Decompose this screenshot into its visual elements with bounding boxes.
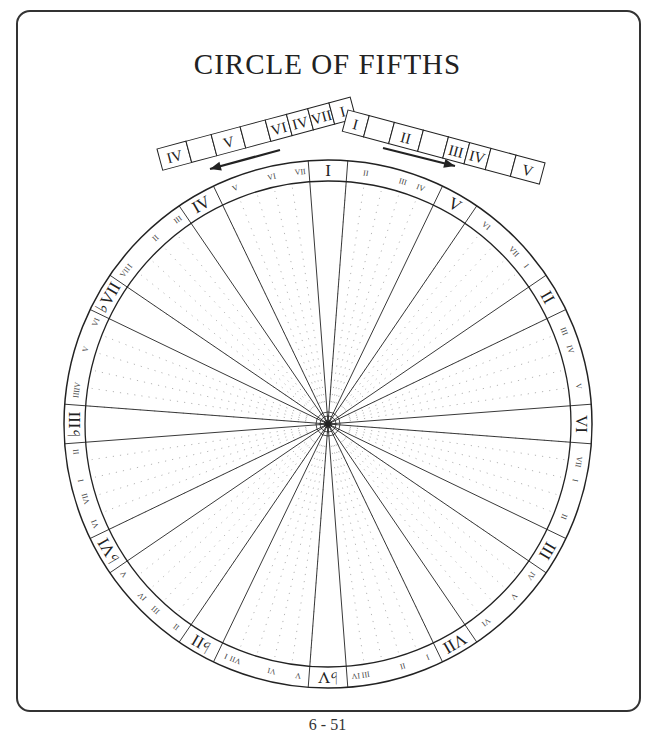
spoke-line	[328, 275, 546, 424]
dotted-guide-line	[179, 237, 314, 407]
major-degree-label: ♭II	[188, 630, 215, 656]
dotted-guide-line	[92, 427, 307, 459]
spoke-line	[308, 424, 328, 687]
minor-degree-label: VI	[89, 518, 101, 530]
dotted-guide-line	[141, 438, 311, 573]
minor-degree-label: I	[223, 651, 229, 660]
minor-degree-label: V	[508, 591, 519, 602]
spoke-line	[179, 424, 328, 642]
page-number: 6 - 51	[0, 716, 655, 734]
dotted-guide-line	[241, 202, 320, 404]
dotted-guide-line	[100, 430, 307, 494]
dotted-guide-line	[100, 354, 307, 418]
dotted-guide-line	[336, 444, 415, 646]
major-degree-label: III	[535, 539, 560, 564]
dotted-guide-line	[258, 196, 322, 403]
spoke-line	[328, 424, 442, 662]
major-degree-label: ♭VI	[94, 534, 124, 566]
dotted-guide-line	[348, 337, 550, 416]
major-degree-label: VI	[572, 415, 591, 433]
dotted-guide-line	[350, 427, 565, 459]
minor-degree-label: I	[522, 262, 531, 270]
dotted-guide-line	[342, 441, 477, 611]
dotted-guide-line	[348, 432, 550, 511]
minor-degree-label: IV	[415, 182, 426, 194]
hub-center	[325, 421, 331, 427]
spoke-line	[110, 275, 328, 424]
dotted-guide-line	[333, 191, 381, 403]
dotted-guide-line	[334, 196, 398, 403]
minor-degree-label: VI	[480, 220, 492, 233]
minor-degree-label: II	[559, 512, 569, 521]
dotted-guide-line	[350, 388, 565, 420]
dotted-guide-line	[292, 188, 324, 403]
minor-degree-label: V	[81, 345, 91, 353]
minor-degree-label: IV	[351, 671, 361, 681]
dotted-guide-line	[336, 202, 415, 404]
minor-degree-label: VII	[573, 456, 584, 469]
dotted-guide-line	[345, 438, 515, 573]
dotted-guide-line	[258, 445, 322, 652]
spoke-line	[179, 206, 328, 424]
dotted-guide-line	[106, 432, 308, 511]
minor-degree-label: III	[398, 176, 409, 187]
minor-degree-label: II	[71, 448, 81, 455]
minor-degree-label: VI	[90, 316, 102, 328]
major-degree-label: I	[325, 161, 331, 180]
dotted-guide-line	[275, 191, 323, 403]
minor-degree-label: II	[362, 168, 369, 178]
minor-degree-label: III	[172, 214, 184, 226]
spoke-line	[328, 424, 546, 573]
spoke-line	[214, 424, 328, 662]
major-degree-label: ♭V	[317, 668, 338, 687]
dotted-guide-line	[331, 188, 363, 403]
major-degree-label: ♭VII	[92, 279, 124, 316]
dotted-guide-line	[349, 430, 556, 494]
minor-degree-label: IV	[565, 344, 576, 355]
minor-degree-label: V	[294, 671, 301, 681]
dotted-guide-line	[349, 354, 556, 418]
spoke-line	[328, 310, 566, 424]
spoke-line	[328, 404, 591, 424]
right-degree-scale: IIIIIIIVV	[342, 110, 545, 184]
minor-degree-label: I	[425, 652, 431, 661]
dotted-guide-line	[241, 444, 320, 646]
spoke-line	[328, 424, 348, 687]
spoke-line	[308, 161, 328, 424]
minor-degree-label: V	[574, 383, 584, 390]
major-degree-label: VII	[439, 629, 469, 657]
dotted-guide-line	[275, 445, 323, 657]
minor-degree-label: IV	[525, 570, 537, 582]
dotted-guide-line	[333, 445, 381, 657]
dotted-guide-line	[349, 429, 561, 477]
minor-degree-label: II	[399, 661, 407, 671]
minor-degree-label: VII	[80, 492, 92, 506]
spoke-line	[328, 424, 591, 444]
minor-degree-label: V	[231, 183, 240, 194]
minor-degree-label: I	[570, 478, 579, 483]
minor-degree-label: IV	[72, 381, 82, 391]
spoke-line	[65, 404, 328, 424]
dotted-guide-line	[345, 275, 515, 410]
center-hub	[316, 412, 340, 436]
spoke-line	[90, 310, 328, 424]
dotted-guide-line	[141, 275, 311, 410]
minor-degree-label: VI	[266, 666, 277, 677]
spoke-line	[328, 206, 477, 424]
minor-degree-label: VI	[266, 171, 277, 182]
minor-degree-label: VII	[507, 244, 521, 259]
dotted-guide-line	[95, 429, 307, 477]
minor-degree-label: II	[151, 233, 161, 243]
minor-degree-label: IV	[136, 590, 148, 602]
major-degree-label: ♭III	[65, 411, 84, 436]
minor-degree-label: III	[149, 604, 161, 616]
arrow-counter-clockwise-head	[210, 162, 222, 171]
degree-scales: IVVVIIVVIIIIIIIIIIVV	[157, 97, 545, 184]
minor-degree-label: II	[171, 622, 181, 633]
minor-degree-label: III	[558, 326, 569, 337]
dotted-guide-line	[334, 445, 398, 652]
spoke-line	[110, 424, 328, 573]
dotted-guide-line	[179, 441, 314, 611]
minor-degree-label: VI	[480, 616, 492, 629]
